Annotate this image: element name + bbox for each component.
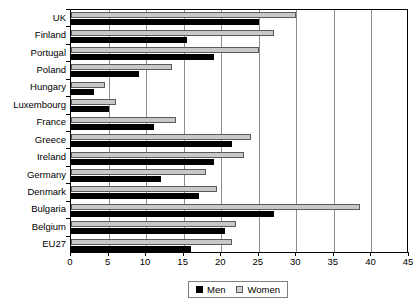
y-axis-labels: UKFinlandPortugalPolandHungaryLuxembourg…: [0, 9, 66, 253]
bar-women: [71, 221, 236, 227]
bar-men: [71, 71, 139, 77]
bar-women: [71, 12, 296, 18]
x-axis-tick: [408, 252, 409, 256]
bar-row: [71, 149, 407, 166]
y-axis-label: UK: [0, 13, 66, 23]
bar-men: [71, 54, 214, 60]
y-axis-label: Germany: [0, 170, 66, 180]
bar-row: [71, 219, 407, 236]
x-axis-tick-label: 45: [403, 256, 414, 267]
bar-rows: [71, 10, 407, 252]
x-axis-tick-label: 0: [67, 256, 72, 267]
legend-swatch-women-icon: [236, 286, 243, 293]
y-axis-label: Portugal: [0, 48, 66, 58]
x-axis-labels: 051015202530354045: [70, 256, 408, 270]
y-axis-label: France: [0, 117, 66, 127]
bar-women: [71, 117, 176, 123]
y-axis-label: Belgium: [0, 222, 66, 232]
bar-women: [71, 82, 105, 88]
bar-men: [71, 193, 199, 199]
bar-men: [71, 89, 94, 95]
bar-row: [71, 115, 407, 132]
x-axis-tick-label: 15: [177, 256, 188, 267]
x-axis-tick: [70, 252, 71, 256]
bar-men: [71, 106, 109, 112]
bar-row: [71, 132, 407, 149]
bar-row: [71, 80, 407, 97]
bar-women: [71, 30, 274, 36]
bar-men: [71, 37, 187, 43]
bar-row: [71, 184, 407, 201]
bar-women: [71, 239, 232, 245]
bar-women: [71, 152, 244, 158]
chart-legend: Men Women: [188, 281, 288, 298]
bar-chart: UKFinlandPortugalPolandHungaryLuxembourg…: [0, 0, 419, 307]
x-axis-tick-label: 40: [365, 256, 376, 267]
y-axis-label: Luxembourg: [0, 100, 66, 110]
x-axis-tick-label: 10: [140, 256, 151, 267]
bar-women: [71, 99, 116, 105]
x-axis-tick: [220, 252, 221, 256]
bar-men: [71, 124, 154, 130]
bar-row: [71, 97, 407, 114]
bar-row: [71, 167, 407, 184]
legend-swatch-men-icon: [196, 286, 203, 293]
bar-women: [71, 64, 172, 70]
bar-women: [71, 186, 217, 192]
bar-row: [71, 62, 407, 79]
bar-men: [71, 159, 214, 165]
x-axis-tick-label: 30: [290, 256, 301, 267]
y-axis-label: Ireland: [0, 152, 66, 162]
y-axis-label: Greece: [0, 135, 66, 145]
y-axis-label: Poland: [0, 65, 66, 75]
bar-row: [71, 27, 407, 44]
y-axis-label: Denmark: [0, 187, 66, 197]
bar-women: [71, 169, 206, 175]
x-axis-tick: [295, 252, 296, 256]
bar-men: [71, 211, 274, 217]
x-axis-tick: [258, 252, 259, 256]
bar-women: [71, 47, 259, 53]
bar-row: [71, 10, 407, 27]
x-axis-tick-label: 25: [252, 256, 263, 267]
x-axis-tick: [145, 252, 146, 256]
bar-men: [71, 176, 161, 182]
plot-area: [70, 9, 408, 253]
bar-women: [71, 204, 360, 210]
x-axis-tick-label: 35: [328, 256, 339, 267]
bar-men: [71, 246, 191, 252]
x-axis-tick: [370, 252, 371, 256]
bar-row: [71, 45, 407, 62]
bar-men: [71, 141, 232, 147]
bar-men: [71, 228, 225, 234]
y-axis-label: Bulgaria: [0, 204, 66, 214]
legend-item-men: Men: [196, 284, 225, 295]
y-axis-label: Hungary: [0, 82, 66, 92]
legend-label-men: Men: [207, 284, 225, 295]
y-axis-label: EU27: [0, 239, 66, 249]
bar-women: [71, 134, 251, 140]
bar-men: [71, 19, 259, 25]
x-axis-tick: [183, 252, 184, 256]
x-axis-tick-label: 20: [215, 256, 226, 267]
x-axis-tick: [108, 252, 109, 256]
legend-item-women: Women: [236, 284, 280, 295]
x-axis-tick: [333, 252, 334, 256]
bar-row: [71, 202, 407, 219]
x-axis-tick-label: 5: [105, 256, 110, 267]
legend-label-women: Women: [247, 284, 280, 295]
bar-row: [71, 237, 407, 254]
y-axis-label: Finland: [0, 30, 66, 40]
